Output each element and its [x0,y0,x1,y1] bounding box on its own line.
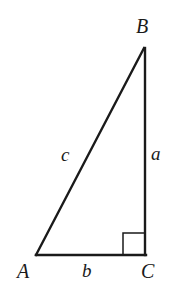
side-label-c: c [61,145,69,164]
side-label-a: a [151,144,161,163]
vertex-label-c: C [141,261,154,281]
triangle-diagram: B A C c a b [0,0,173,305]
side-label-b: b [82,261,92,280]
side-c-hypotenuse-line [36,48,144,255]
right-angle-square-icon [123,233,145,255]
vertex-label-a: A [17,261,29,281]
vertex-label-b: B [136,16,148,36]
